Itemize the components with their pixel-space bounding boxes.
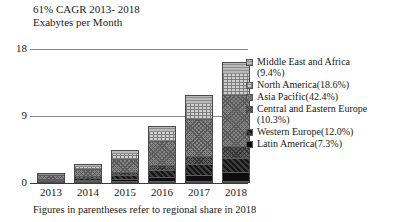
x-label-2015: 2015 xyxy=(105,186,145,199)
bar-segment xyxy=(38,182,64,183)
bar-segment xyxy=(149,178,175,182)
bar-segment xyxy=(186,176,212,182)
stacked-bar-2017[interactable] xyxy=(185,95,213,183)
bar-segment xyxy=(75,181,101,182)
ytick-9: 9 xyxy=(22,110,28,121)
bar-segment xyxy=(112,180,138,182)
x-label-2016: 2016 xyxy=(142,186,182,199)
x-axis-labels: 201320142015201620172018 xyxy=(30,186,248,202)
bar-segment xyxy=(149,132,175,142)
bars-layer xyxy=(30,45,248,183)
legend-swatch-icon xyxy=(246,106,253,113)
x-label-2014: 2014 xyxy=(68,186,108,199)
legend-swatch-icon xyxy=(246,59,253,66)
legend-label: Central and Eastern Europe (10.3%) xyxy=(257,103,367,125)
axis-baseline-0 xyxy=(30,183,248,184)
legend-swatch-icon xyxy=(246,129,253,136)
legend-swatch-icon xyxy=(246,82,253,89)
bar-segment xyxy=(186,104,212,120)
ytick-0: 0 xyxy=(22,177,28,188)
chart-title: 61% CAGR 2013- 2018 Exabytes per Month xyxy=(33,3,140,29)
x-label-2013: 2013 xyxy=(31,186,71,199)
stacked-bar-2013[interactable] xyxy=(37,173,65,183)
ytick-18: 18 xyxy=(16,43,27,54)
legend-label: Latin America(7.3%) xyxy=(257,138,342,149)
legend-item[interactable]: Central and Eastern Europe (10.3%) xyxy=(246,103,394,125)
legend-item[interactable]: Western Europe(12.0%) xyxy=(246,126,394,137)
legend-item[interactable]: Latin America(7.3%) xyxy=(246,138,394,149)
stacked-bar-2016[interactable] xyxy=(148,126,176,183)
legend-item[interactable]: North America(18.6%) xyxy=(246,79,394,90)
stacked-bar-2014[interactable] xyxy=(74,164,102,183)
bar-segment xyxy=(223,173,249,182)
bar-segment xyxy=(149,142,175,165)
chart-footnote: Figures in parentheses refer to regional… xyxy=(33,203,256,216)
x-label-2017: 2017 xyxy=(179,186,219,199)
legend-label: Middle East and Africa (9.4%) xyxy=(257,56,350,78)
chart-title-line-1: 61% CAGR 2013- 2018 xyxy=(33,3,140,16)
bar-segment xyxy=(186,96,212,104)
legend-label: North America(18.6%) xyxy=(257,79,349,90)
chart-container: 61% CAGR 2013- 2018 Exabytes per Month 1… xyxy=(0,0,394,222)
bar-segment xyxy=(186,120,212,157)
bar-segment xyxy=(75,170,101,177)
bar-segment xyxy=(223,159,249,173)
legend-label: Asia Pacific(42.4%) xyxy=(257,91,338,102)
bar-segment xyxy=(186,165,212,175)
legend-swatch-icon xyxy=(246,141,253,148)
stacked-bar-2015[interactable] xyxy=(111,150,139,183)
x-label-2018: 2018 xyxy=(216,186,256,199)
legend-swatch-icon xyxy=(246,94,253,101)
legend-item[interactable]: Middle East and Africa (9.4%) xyxy=(246,56,394,78)
legend-item[interactable]: Asia Pacific(42.4%) xyxy=(246,91,394,102)
bar-segment xyxy=(186,157,212,166)
bar-segment xyxy=(112,160,138,173)
chart-legend: Middle East and Africa (9.4%)North Ameri… xyxy=(246,56,394,150)
chart-title-line-2: Exabytes per Month xyxy=(33,16,140,29)
legend-label: Western Europe(12.0%) xyxy=(257,126,353,137)
plot-area: 18 9 0 xyxy=(30,45,248,187)
bar-segment xyxy=(149,171,175,178)
